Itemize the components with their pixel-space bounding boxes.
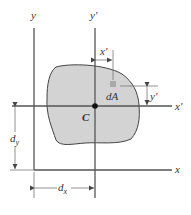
x-prime-dim-label: x′ bbox=[99, 45, 108, 57]
element-label: dA bbox=[106, 90, 119, 102]
x-prime-axis-label: x′ bbox=[174, 100, 183, 112]
y-prime-axis-label: y′ bbox=[89, 9, 98, 21]
area-element bbox=[110, 81, 116, 87]
centroid-point bbox=[92, 103, 98, 109]
centroid-label: C bbox=[82, 111, 90, 123]
parallel-axis-diagram: y y′ x x′ C dA x′ y′ dy dx bbox=[0, 0, 191, 215]
y-prime-dim-label: y′ bbox=[149, 90, 158, 102]
y-axis-label: y bbox=[30, 9, 36, 21]
x-axis-label: x bbox=[174, 163, 180, 175]
